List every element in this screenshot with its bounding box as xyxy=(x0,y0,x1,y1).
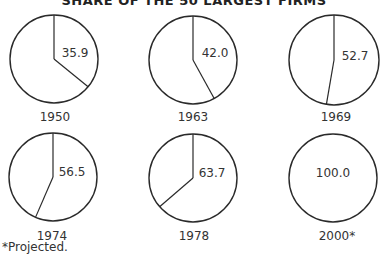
pie-slice-divider xyxy=(160,178,193,207)
pie-slice-divider xyxy=(326,60,334,104)
pie-slice-divider xyxy=(54,59,88,87)
pie-2000: 100.02000* xyxy=(289,134,377,243)
pie-year-label: 2000* xyxy=(319,229,356,243)
pie-year-label: 1978 xyxy=(179,229,210,243)
pie-slice-divider xyxy=(193,60,214,99)
pie-value-label: 56.5 xyxy=(59,165,86,179)
pie-value-label: 52.7 xyxy=(342,49,369,63)
pie-value-label: 63.7 xyxy=(199,166,226,180)
pie-slice-divider xyxy=(36,177,53,217)
pie-value-label: 35.9 xyxy=(62,46,89,60)
pie-1963: 42.01963 xyxy=(149,16,237,124)
footnote: *Projected. xyxy=(2,240,68,254)
pie-1969: 52.71969 xyxy=(289,15,379,124)
pie-value-label: 42.0 xyxy=(202,46,229,60)
pie-value-label: 100.0 xyxy=(316,166,350,180)
pie-1950: 35.91950 xyxy=(10,15,98,124)
pie-charts: 35.9195042.0196352.7196956.5197463.71978… xyxy=(0,0,388,268)
pie-1978: 63.71978 xyxy=(149,134,237,243)
pie-1974: 56.51974 xyxy=(9,133,97,243)
pie-year-label: 1963 xyxy=(178,110,209,124)
pie-year-label: 1969 xyxy=(321,110,352,124)
pie-year-label: 1950 xyxy=(40,110,71,124)
